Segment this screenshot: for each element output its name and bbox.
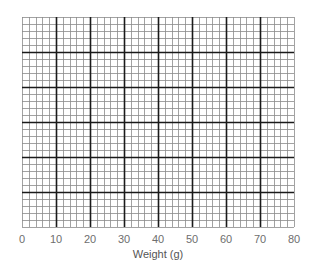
x-tick-label: 20 bbox=[84, 233, 96, 245]
x-tick-label: 10 bbox=[50, 233, 62, 245]
x-tick-label: 60 bbox=[220, 233, 232, 245]
x-tick-label: 70 bbox=[254, 233, 266, 245]
x-tick-label: 80 bbox=[288, 233, 300, 245]
x-tick-label: 0 bbox=[19, 233, 25, 245]
graph-paper-chart: 01020304050607080 Weight (g) bbox=[0, 0, 314, 276]
x-tick-label: 40 bbox=[152, 233, 164, 245]
x-tick-label: 50 bbox=[186, 233, 198, 245]
x-tick-label: 30 bbox=[118, 233, 130, 245]
x-axis-label: Weight (g) bbox=[133, 248, 184, 260]
